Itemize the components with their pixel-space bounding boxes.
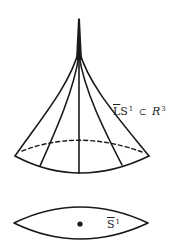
surface-label-superscript: 1	[129, 105, 133, 113]
space-superscript: 3	[161, 105, 165, 113]
cusp-tip	[76, 19, 82, 60]
front-base-arc	[15, 156, 149, 173]
base-label-superscript: 1	[116, 218, 120, 226]
space-symbol: R	[152, 105, 160, 118]
base-label-main: S	[107, 218, 115, 231]
inner-left-meridian	[40, 55, 79, 166]
cusp-surface	[15, 19, 149, 173]
base-point-dot	[77, 221, 82, 226]
outer-right-meridian	[79, 50, 149, 156]
base-label: S1	[107, 219, 120, 230]
base-circle-lens	[14, 207, 148, 239]
subset-symbol: ⊂	[139, 107, 147, 117]
surface-label: LS1 ⊂ R3	[113, 106, 166, 117]
cusp-surface-diagram	[0, 0, 172, 244]
back-base-arc-dashed	[22, 140, 142, 152]
surface-label-rest: S	[120, 105, 128, 118]
